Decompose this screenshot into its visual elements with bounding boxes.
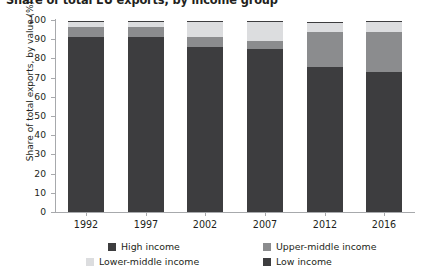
chart-title: Share of total EU exports, by income gro…: [6, 0, 416, 9]
legend-label-lower-middle-income: Lower-middle income: [99, 256, 199, 267]
y-tick-label: 70: [6, 73, 46, 82]
legend-swatch-high-income: [108, 243, 116, 251]
bar-segment[interactable]: [68, 22, 104, 27]
x-tick-label: 1997: [116, 219, 176, 230]
bar-segment[interactable]: [366, 22, 402, 32]
bar-segment[interactable]: [307, 23, 343, 33]
chart-figure: Share of total EU exports, by income gro…: [0, 0, 426, 276]
bar-segment[interactable]: [128, 22, 164, 27]
bar-segment[interactable]: [247, 21, 283, 22]
bar-segment[interactable]: [307, 32, 343, 67]
legend-item-high-income[interactable]: High income: [108, 241, 180, 252]
y-tick-label: 80: [6, 53, 46, 62]
x-tick-label: 1992: [56, 219, 116, 230]
x-tick-mark: [384, 212, 385, 216]
bar-segment[interactable]: [366, 32, 402, 72]
y-tick-mark: [51, 97, 55, 98]
bar-segment[interactable]: [187, 21, 223, 22]
y-tick-mark: [51, 78, 55, 79]
legend-item-lower-middle-income[interactable]: Lower-middle income: [86, 256, 199, 267]
bar-segment[interactable]: [128, 21, 164, 22]
x-tick-mark: [265, 212, 266, 216]
legend-row: High income Upper-middle income: [108, 241, 408, 256]
bar-stack[interactable]: [366, 20, 402, 212]
chart-legend: High income Upper-middle income Lower-mi…: [108, 241, 408, 271]
legend-label-low-income: Low income: [276, 256, 332, 267]
bar-stack[interactable]: [128, 20, 164, 212]
bar-segment[interactable]: [366, 72, 402, 212]
legend-item-low-income[interactable]: Low income: [263, 256, 332, 267]
x-tick-mark: [146, 212, 147, 216]
legend-label-high-income: High income: [121, 241, 180, 252]
bar-segment[interactable]: [366, 21, 402, 22]
bar-segment[interactable]: [68, 37, 104, 212]
y-tick-label: 90: [6, 34, 46, 43]
bar-segment[interactable]: [68, 27, 104, 38]
y-tick-label: 40: [6, 130, 46, 139]
x-tick-mark: [86, 212, 87, 216]
y-tick-mark: [51, 58, 55, 59]
y-tick-mark: [51, 174, 55, 175]
x-tick-mark: [205, 212, 206, 216]
y-tick-label: 100: [6, 15, 46, 24]
y-tick-mark: [51, 116, 55, 117]
y-tick-mark: [51, 39, 55, 40]
y-tick-label: 50: [6, 111, 46, 120]
bar-segment[interactable]: [247, 49, 283, 212]
x-tick-mark: [325, 212, 326, 216]
bar-stack[interactable]: [307, 20, 343, 212]
x-tick-label: 2016: [354, 219, 414, 230]
legend-label-upper-middle-income: Upper-middle income: [276, 241, 377, 252]
bar-segment[interactable]: [187, 22, 223, 37]
x-axis-line: [55, 212, 415, 213]
bar-segment[interactable]: [247, 41, 283, 49]
legend-swatch-low-income: [263, 258, 271, 266]
plot-area: [56, 20, 414, 212]
x-tick-label: 2012: [295, 219, 355, 230]
x-tick-label: 2007: [235, 219, 295, 230]
legend-row: Lower-middle income Low income: [108, 256, 408, 271]
y-tick-label: 10: [6, 188, 46, 197]
y-tick-label: 30: [6, 149, 46, 158]
bar-segment[interactable]: [307, 67, 343, 212]
y-tick-mark: [51, 135, 55, 136]
y-tick-label: 60: [6, 92, 46, 101]
bar-segment[interactable]: [68, 21, 104, 22]
x-tick-label: 2002: [175, 219, 235, 230]
y-tick-mark: [51, 20, 55, 21]
legend-swatch-upper-middle-income: [263, 243, 271, 251]
y-tick-label: 20: [6, 169, 46, 178]
bar-stack[interactable]: [247, 20, 283, 212]
bar-segment[interactable]: [128, 27, 164, 38]
bar-segment[interactable]: [247, 22, 283, 41]
bar-segment[interactable]: [187, 47, 223, 212]
legend-swatch-lower-middle-income: [86, 258, 94, 266]
y-tick-mark: [51, 154, 55, 155]
legend-item-upper-middle-income[interactable]: Upper-middle income: [263, 241, 377, 252]
bar-stack[interactable]: [187, 20, 223, 212]
bar-stack[interactable]: [68, 20, 104, 212]
y-tick-label: 0: [6, 207, 46, 216]
bar-segment[interactable]: [187, 37, 223, 47]
y-tick-mark: [51, 212, 55, 213]
y-tick-mark: [51, 193, 55, 194]
bar-segment[interactable]: [128, 37, 164, 212]
bar-segment[interactable]: [307, 22, 343, 23]
